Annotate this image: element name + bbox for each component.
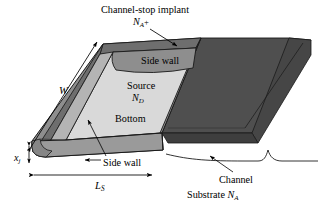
label-source-doping: ND [132,92,144,105]
subscript-S: S [101,185,105,193]
symbol-N: N [133,16,140,27]
substrate-front-face [162,133,258,143]
label-dimension-LS: LS [95,180,105,193]
leader-channel [210,156,233,172]
subscript-D: D [139,97,144,104]
label-dimension-xj: xj [14,152,20,165]
label-channel-stop-doping: NA+ [133,16,149,29]
mosfet-source-diagram [0,0,318,207]
substrate-bracket-right [268,150,318,161]
label-substrate: Substrate NA [187,189,239,202]
label-channel-stop-implant: Channel-stop implant [101,4,189,15]
label-channel: Channel [219,174,253,185]
label-bottom: Bottom [115,113,146,124]
subscript-A: A [234,194,238,201]
label-side-wall-bottom: Side wall [103,157,141,168]
substrate-bracket [166,150,268,161]
superscript-plus: + [144,17,149,27]
symbol-N: N [132,92,139,103]
label-side-wall-top: Side wall [141,55,179,66]
figure-canvas: Channel-stop implant NA+ Side wall Sourc… [0,0,318,207]
label-dimension-W: W [59,85,68,97]
substrate-word: Substrate [187,189,225,200]
subscript-j: j [19,157,21,164]
label-source: Source [127,80,155,91]
symbol-W: W [59,85,68,96]
